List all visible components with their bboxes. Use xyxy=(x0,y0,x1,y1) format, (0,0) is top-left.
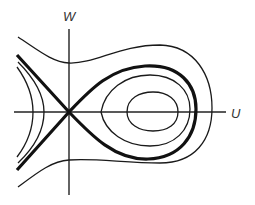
phase-portrait-diagram: W U xyxy=(0,0,255,205)
closed-orbit-middle xyxy=(101,75,190,146)
u-axis-label: U xyxy=(231,106,241,121)
w-axis-label: W xyxy=(63,9,77,24)
